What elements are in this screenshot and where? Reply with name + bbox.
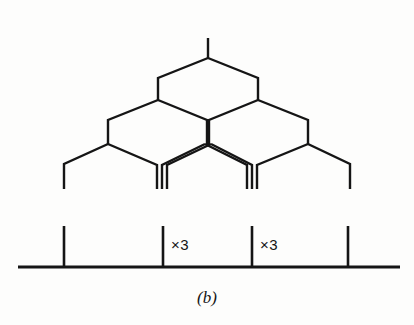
- branch-l1-left: [158, 58, 208, 101]
- branch-l3-a1: [64, 144, 108, 189]
- branch-l3-d2: [308, 144, 350, 189]
- branch-l2-c: [209, 100, 258, 145]
- branch-l1-right: [208, 58, 258, 101]
- figure-container: ×3 ×3 (b): [0, 0, 414, 325]
- tree-group: [64, 38, 350, 189]
- branch-l3-d1: [257, 144, 308, 189]
- multiplicity-label-right: ×3: [260, 237, 278, 252]
- spectrum-group: [18, 226, 400, 267]
- branch-l2-b: [158, 100, 207, 145]
- splitting-tree-diagram: [0, 0, 414, 325]
- multiplicity-label-left: ×3: [171, 237, 189, 252]
- branch-l2-d: [258, 100, 308, 145]
- branch-l3-a2: [108, 144, 157, 189]
- branch-l2-a: [108, 100, 158, 145]
- figure-caption: (b): [0, 288, 414, 308]
